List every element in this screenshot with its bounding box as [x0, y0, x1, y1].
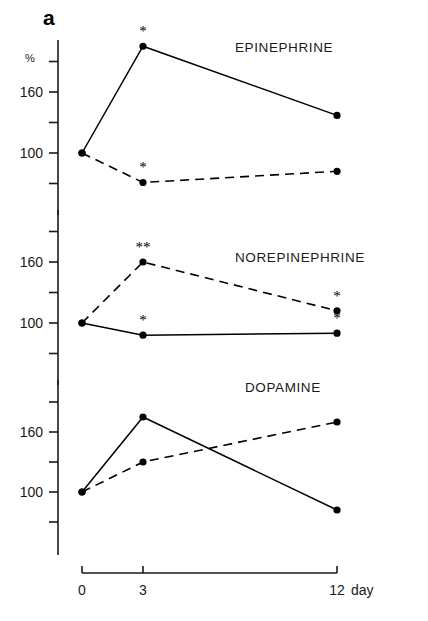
significance-marker: * [139, 159, 147, 175]
y-axis-unit-label: % [25, 52, 35, 64]
significance-marker: * [333, 288, 341, 304]
data-point [139, 332, 146, 339]
panel-title: NOREPINEPHRINE [235, 250, 365, 265]
data-point [78, 488, 85, 495]
significance-marker: * [139, 23, 147, 39]
data-point [333, 506, 340, 513]
x-axis-unit-label: day [351, 582, 374, 598]
figure-background [0, 0, 428, 621]
y-tick-label: 100 [20, 145, 44, 161]
y-tick-label: 100 [20, 315, 44, 331]
x-tick-label: 0 [78, 582, 86, 598]
panel-title: EPINEPHRINE [235, 40, 333, 55]
significance-marker: ** [136, 239, 151, 255]
panel-letter: a [43, 6, 55, 29]
x-tick-label: 12 [329, 582, 345, 598]
data-point [139, 43, 146, 50]
data-point [78, 319, 85, 326]
x-tick-label: 3 [139, 582, 147, 598]
data-point [333, 168, 340, 175]
data-point [333, 330, 340, 337]
catecholamine-line-chart: a % 100160EPINEPHRINE**100160NOREPINEPHR… [0, 0, 428, 621]
significance-marker: * [139, 312, 147, 328]
significance-marker: * [333, 310, 341, 326]
y-tick-label: 100 [20, 484, 44, 500]
y-tick-label: 160 [20, 424, 44, 440]
data-point [333, 112, 340, 119]
data-point [139, 413, 146, 420]
y-tick-label: 160 [20, 254, 44, 270]
panel-title: DOPAMINE [245, 380, 321, 395]
data-point [139, 458, 146, 465]
y-tick-label: 160 [20, 84, 44, 100]
data-point [139, 258, 146, 265]
data-point [78, 149, 85, 156]
data-point [333, 418, 340, 425]
data-point [139, 179, 146, 186]
